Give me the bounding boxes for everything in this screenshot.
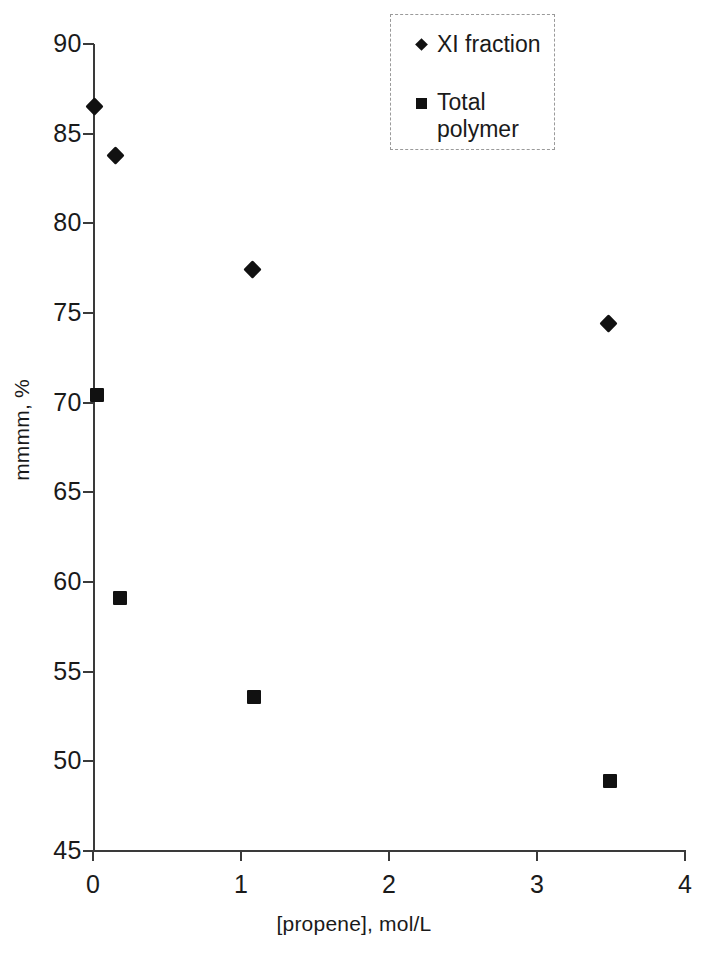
data-point: [599, 315, 617, 333]
y-axis-tick-label: 90: [20, 31, 82, 56]
x-axis-tick: [92, 850, 94, 861]
x-axis-tick-label: 0: [73, 872, 113, 897]
data-point: [90, 388, 104, 402]
y-axis-tick-label: 55: [20, 659, 82, 684]
x-axis-tick: [684, 850, 686, 861]
x-axis-tick-label: 1: [221, 872, 261, 897]
y-axis-title: mmmm, %: [10, 310, 34, 550]
data-point: [603, 774, 617, 788]
scatter-chart: 45505560657075808590 01234 [propene], mo…: [0, 0, 708, 965]
x-axis-tick: [240, 850, 242, 861]
x-axis-tick-label: 2: [369, 872, 409, 897]
y-axis-tick-label: 50: [20, 748, 82, 773]
x-axis-tick: [388, 850, 390, 861]
legend-entry-total-polymer: Total polymer: [411, 89, 547, 143]
x-axis-tick-label: 4: [665, 872, 705, 897]
square-marker-icon: [411, 98, 431, 109]
x-axis-title: [propene], mol/L: [0, 912, 708, 936]
legend: XI fraction Total polymer: [390, 14, 555, 150]
x-axis-tick-label: 3: [517, 872, 557, 897]
diamond-marker-icon: [411, 40, 431, 49]
y-axis-tick-label: 85: [20, 121, 82, 146]
legend-label: XI fraction: [431, 31, 541, 58]
legend-label: Total polymer: [431, 89, 547, 143]
y-axis-tick-label: 80: [20, 210, 82, 235]
legend-entry-xi-fraction: XI fraction: [411, 31, 541, 58]
data-point: [247, 690, 261, 704]
y-axis-tick-label: 45: [20, 838, 82, 863]
data-point: [244, 261, 262, 279]
x-axis-tick: [536, 850, 538, 861]
data-point: [106, 146, 124, 164]
data-point: [85, 98, 103, 116]
plot-area: [93, 44, 685, 851]
y-axis-tick-label: 60: [20, 569, 82, 594]
data-point: [113, 591, 127, 605]
